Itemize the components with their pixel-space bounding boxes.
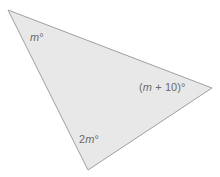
angle-label-m-plus-10: (m + 10)° [139,82,186,93]
angle-label-m-plus-10-constant: 10) [165,81,181,93]
angle-label-2m-degree: ° [94,133,99,145]
angle-label-m: m° [30,32,44,43]
angle-label-m-plus-10-variable: m [143,81,152,93]
angle-label-m-plus-10-operator: + [152,81,165,93]
angle-label-2m: 2m° [79,134,99,145]
angle-label-m-plus-10-degree: ° [181,81,186,93]
angle-label-m-degree: ° [39,31,44,43]
triangle-shape [0,0,220,177]
triangle-diagram-canvas: m° (m + 10)° 2m° [0,0,220,177]
angle-label-m-variable: m [30,31,39,43]
